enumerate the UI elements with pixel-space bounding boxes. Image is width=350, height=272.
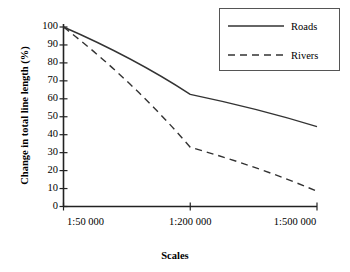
legend-item-rivers: Rivers (220, 46, 339, 64)
x-axis-tick-labels: 1:50 0001:200 0001:500 000 (0, 216, 350, 236)
x-tick-label: 1:50 000 (67, 216, 104, 227)
x-axis-title: Scales (0, 250, 350, 261)
legend: Roads Rivers (219, 8, 340, 71)
legend-swatch-solid-icon (228, 21, 284, 31)
x-tick-label: 1:200 000 (169, 216, 211, 227)
legend-item-roads: Roads (220, 17, 339, 35)
x-tick-label: 1:500 000 (274, 216, 316, 227)
legend-label-roads: Roads (291, 21, 317, 32)
line-chart: Change in total line length (%) 01020304… (0, 0, 350, 272)
legend-label-rivers: Rivers (291, 50, 318, 61)
legend-swatch-dashed-icon (228, 50, 284, 60)
